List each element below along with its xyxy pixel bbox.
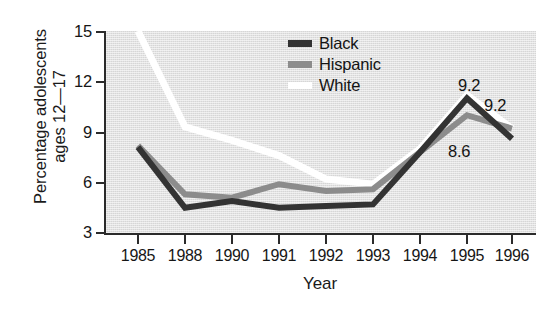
legend-swatch-hispanic-icon [288,61,312,68]
legend-swatch-white-icon [288,82,312,89]
y-axis-line [104,31,106,234]
x-tick-mark-1994 [419,235,421,244]
x-axis-line [104,233,536,235]
x-tick-mark-1991 [278,235,280,244]
data-label-white-1996: 9.2 [458,76,480,95]
y-tick-label-12: 12 [58,72,92,91]
y-tick-label-6: 6 [58,173,92,192]
chart-figure: Percentage adolescents ages 12—17 15 12 … [0,0,556,309]
data-label-hispanic-1996: 9.2 [484,96,506,115]
x-tick-mark-1988 [184,235,186,244]
x-tick-mark-1995 [466,235,468,244]
x-tick-mark-1992 [325,235,327,244]
legend-item-hispanic: Hispanic [288,55,381,74]
x-tick-mark-1993 [372,235,374,244]
y-tick-label-9: 9 [58,123,92,142]
x-tick-mark-1985 [137,235,139,244]
chart-legend: Black Hispanic White [288,34,381,97]
x-tick-mark-1990 [231,235,233,244]
legend-item-black: Black [288,34,381,53]
legend-item-white: White [288,76,381,95]
y-axis-title-line1: Percentage adolescents [31,29,49,204]
legend-label-hispanic: Hispanic [319,56,381,73]
x-tick-label-1996: 1996 [484,247,540,265]
legend-label-black: Black [319,35,358,52]
y-tick-label-3: 3 [58,223,92,242]
x-tick-mark-1996 [511,235,513,244]
x-axis-title: Year [104,274,536,294]
legend-swatch-black-icon [288,40,312,47]
y-tick-label-15: 15 [58,22,92,41]
legend-label-white: White [319,77,360,94]
data-label-black-1996: 8.6 [448,142,470,161]
